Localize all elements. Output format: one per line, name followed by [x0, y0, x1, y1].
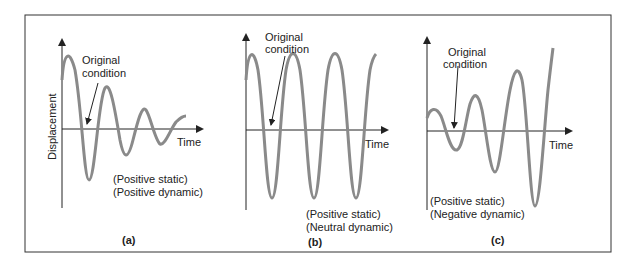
panel-a-caption: (a) [122, 234, 136, 246]
panel-b: Original condition Time (Positive static… [246, 31, 393, 248]
stability-diagram: Original condition Displacement Time (Po… [0, 0, 636, 270]
annotation-line-2: condition [82, 67, 126, 79]
panel-b-caption: (b) [308, 236, 322, 248]
annotation-line-1: Original [448, 46, 486, 58]
pointer-arrow-icon [87, 83, 98, 124]
panel-a-note-2: (Positive dynamic) [113, 186, 203, 198]
panel-c-note-1: (Positive static) [430, 195, 505, 207]
panel-c: Original condition Time (Positive static… [427, 38, 573, 246]
panel-c-note-2: (Negative dynamic) [430, 208, 525, 220]
x-axis-label: Time [365, 138, 389, 150]
annotation-line-1: Original [265, 31, 303, 43]
divergent-oscillation-curve [427, 48, 553, 206]
panel-a: Original condition Displacement Time (Po… [46, 40, 203, 246]
y-axis-label: Displacement [46, 93, 58, 160]
annotation-line-1: Original [82, 54, 120, 66]
neutral-oscillation-curve [246, 54, 376, 199]
annotation-line-2: condition [265, 43, 309, 55]
panel-b-note-1: (Positive static) [306, 208, 381, 220]
panel-a-note-1: (Positive static) [113, 173, 188, 185]
panel-b-note-2: (Neutral dynamic) [306, 221, 393, 233]
pointer-arrow-icon [454, 66, 458, 128]
annotation-line-2: condition [443, 58, 487, 70]
x-axis-label: Time [549, 139, 573, 151]
panel-c-caption: (c) [491, 234, 505, 246]
x-axis-label: Time [177, 136, 201, 148]
